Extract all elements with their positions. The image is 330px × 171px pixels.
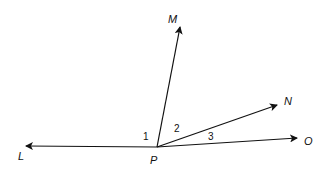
diagram-svg: L M N O P 1 2 3 [0,0,330,171]
angle-3-label: 3 [208,131,214,142]
label-l: L [18,150,24,162]
angle-1-label: 1 [143,131,149,142]
label-p: P [150,154,158,166]
angle-2-label: 2 [174,123,180,134]
label-o: O [304,135,313,147]
label-m: M [168,13,178,25]
ray-pl [26,146,157,147]
label-n: N [284,95,292,107]
angle-diagram: L M N O P 1 2 3 [0,0,330,171]
